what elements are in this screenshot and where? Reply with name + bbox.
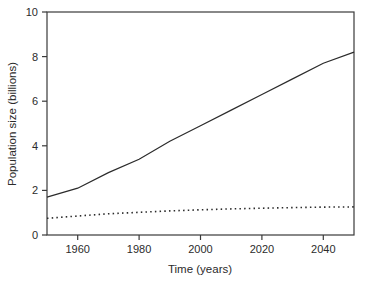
y-tick-label: 4 — [32, 140, 38, 152]
x-tick-label: 2040 — [311, 243, 335, 255]
solid-line-series — [47, 52, 354, 197]
y-tick-label: 8 — [32, 51, 38, 63]
x-tick-label: 2000 — [188, 243, 212, 255]
dotted-line-series — [47, 207, 354, 218]
x-tick-label: 1960 — [65, 243, 89, 255]
plot-area: 204020202000198019601086420 Time (years)… — [0, 0, 365, 288]
x-tick-label: 1980 — [127, 243, 151, 255]
plot-border — [47, 12, 354, 235]
population-projection-figure: 204020202000198019601086420 Time (years)… — [0, 0, 365, 288]
y-tick-label: 6 — [32, 95, 38, 107]
y-axis-label: Population size (billions) — [6, 62, 18, 186]
y-tick-label: 10 — [26, 6, 38, 18]
x-axis-label: Time (years) — [168, 263, 232, 275]
x-tick-label: 2020 — [250, 243, 274, 255]
y-tick-label: 2 — [32, 184, 38, 196]
y-tick-label: 0 — [32, 229, 38, 241]
